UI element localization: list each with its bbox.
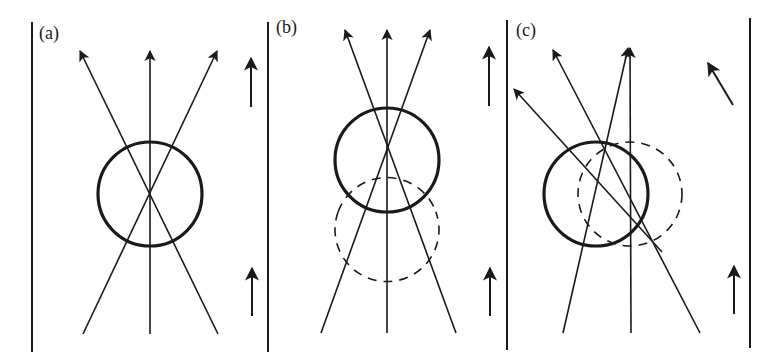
- panel-b: (b): [276, 17, 490, 333]
- panels: (a)(b)(c): [39, 17, 734, 334]
- light-ray-arrow: [345, 30, 456, 333]
- panel-label: (c): [516, 20, 536, 41]
- light-ray-arrow: [630, 48, 631, 333]
- panel-a: (a): [39, 23, 252, 334]
- light-ray-arrow: [514, 89, 662, 252]
- light-ray-arrow: [321, 30, 430, 333]
- light-ray-arrow: [563, 48, 628, 333]
- panel-label: (a): [39, 23, 59, 44]
- diagram-canvas: (a)(b)(c): [0, 0, 780, 359]
- flow-direction-arrow-icon: [708, 63, 733, 105]
- channel-walls: [32, 18, 750, 352]
- lens-circle: [544, 142, 648, 246]
- figure-three-panels: (a)(b)(c): [0, 0, 780, 359]
- panel-c: (c): [514, 20, 734, 333]
- panel-label: (b): [276, 17, 297, 38]
- light-ray-arrow: [553, 50, 700, 333]
